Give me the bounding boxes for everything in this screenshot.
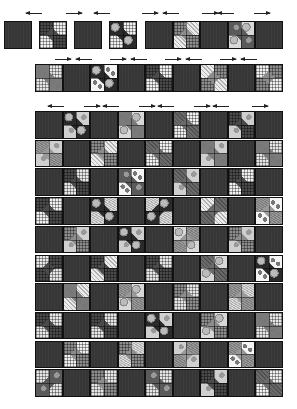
seam-line xyxy=(91,268,117,269)
block-quadrant xyxy=(53,35,66,48)
press-right-arrow-icon xyxy=(139,106,155,107)
pieced-snowball-block xyxy=(255,197,283,225)
solid-dark-block xyxy=(145,168,173,196)
solid-dark-block xyxy=(63,197,91,225)
seam-line xyxy=(256,153,282,154)
solid-dark-block xyxy=(35,341,63,369)
block-quadrant xyxy=(104,383,117,396)
solid-dark-block xyxy=(118,369,146,397)
pieced-snowball-block xyxy=(90,369,118,397)
pieced-snowball-block xyxy=(63,283,91,311)
block-quadrant xyxy=(64,240,77,253)
block-quadrant xyxy=(214,326,227,339)
solid-dark-block xyxy=(200,283,228,311)
seam-line xyxy=(36,153,62,154)
pieced-snowball-block xyxy=(35,197,63,225)
pieced-snowball-block xyxy=(35,140,63,168)
solid-dark-block xyxy=(35,226,63,254)
seam-line xyxy=(229,35,255,36)
pieced-snowball-block xyxy=(255,255,283,283)
block-quadrant xyxy=(201,383,214,396)
solid-dark-block xyxy=(255,168,283,196)
block-quadrant xyxy=(64,182,77,195)
press-left-arrow-icon xyxy=(131,59,147,60)
block-quadrant xyxy=(269,211,282,224)
pieced-snowball-block xyxy=(173,21,201,49)
block-quadrant xyxy=(159,211,172,224)
seam-line xyxy=(64,240,90,241)
seam-line xyxy=(201,268,227,269)
pieced-snowball-block xyxy=(145,64,173,92)
pieced-snowball-block xyxy=(35,312,63,340)
seam-line xyxy=(36,268,62,269)
pieced-snowball-block xyxy=(228,21,256,49)
block-quadrant xyxy=(91,383,104,396)
press-left-arrow-icon xyxy=(158,106,174,107)
pieced-snowball-block xyxy=(200,140,228,168)
seam-line xyxy=(36,78,62,79)
block-quadrant xyxy=(91,326,104,339)
press-right-arrow-icon xyxy=(194,106,210,107)
solid-dark-block xyxy=(228,64,256,92)
block-quadrant xyxy=(131,354,144,367)
pieced-snowball-block xyxy=(109,21,137,49)
pieced-snowball-block xyxy=(200,255,228,283)
seam-line xyxy=(119,125,145,126)
seam-line xyxy=(146,211,172,212)
block-quadrant xyxy=(214,211,227,224)
seam-line xyxy=(110,35,136,36)
press-right-arrow-icon xyxy=(110,59,126,60)
block-quadrant xyxy=(186,354,199,367)
solid-dark-block xyxy=(145,226,173,254)
seam-line xyxy=(36,326,62,327)
seam-line xyxy=(256,326,282,327)
block-quadrant xyxy=(241,297,254,310)
seam-line xyxy=(229,125,255,126)
solid-dark-block xyxy=(228,255,256,283)
solid-dark-block xyxy=(63,64,91,92)
seam-line xyxy=(256,78,282,79)
seam-line xyxy=(91,153,117,154)
pieced-snowball-block xyxy=(255,312,283,340)
seam-line xyxy=(256,383,282,384)
seam-line xyxy=(64,125,90,126)
pieced-snowball-block xyxy=(255,64,283,92)
pieced-snowball-block xyxy=(90,197,118,225)
pieced-snowball-block xyxy=(118,283,146,311)
solid-dark-block xyxy=(173,140,201,168)
block-quadrant xyxy=(91,153,104,166)
solid-dark-block xyxy=(255,283,283,311)
pieced-snowball-block xyxy=(228,168,256,196)
solid-dark-block xyxy=(90,168,118,196)
seam-line xyxy=(119,354,145,355)
quilt-assembly-diagram: Quilt assembly diagram xyxy=(0,0,297,409)
press-left-arrow-icon xyxy=(241,59,257,60)
solid-dark-block xyxy=(145,111,173,139)
solid-dark-block xyxy=(255,111,283,139)
pieced-snowball-block xyxy=(228,341,256,369)
pieced-snowball-block xyxy=(35,255,63,283)
solid-dark-block xyxy=(63,255,91,283)
guide-line xyxy=(4,14,283,15)
block-quadrant xyxy=(201,268,214,281)
pieced-snowball-block xyxy=(173,283,201,311)
pieced-snowball-block xyxy=(255,369,283,397)
block-quadrant xyxy=(256,153,269,166)
solid-dark-block xyxy=(173,312,201,340)
block-quadrant xyxy=(186,35,199,48)
block-quadrant xyxy=(146,326,159,339)
solid-dark-block xyxy=(173,255,201,283)
solid-dark-block xyxy=(63,312,91,340)
pieced-snowball-block xyxy=(90,140,118,168)
block-quadrant xyxy=(159,153,172,166)
seam-line xyxy=(229,182,255,183)
block-quadrant xyxy=(186,182,199,195)
block-quadrant xyxy=(36,326,49,339)
block-quadrant xyxy=(229,125,242,138)
seam-line xyxy=(201,78,227,79)
seam-line xyxy=(201,326,227,327)
block-quadrant xyxy=(269,383,282,396)
seam-line xyxy=(91,383,117,384)
solid-dark-block xyxy=(4,21,32,49)
solid-dark-block xyxy=(200,168,228,196)
